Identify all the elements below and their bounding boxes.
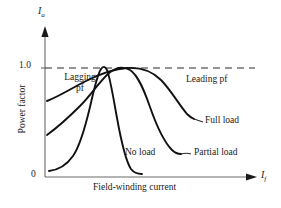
leader-line-full-load — [194, 119, 203, 122]
annotation-lagging-pf: Lagging pf — [52, 72, 108, 93]
y-axis-arrowhead — [41, 26, 48, 37]
annotation-partial-load: Partial load — [194, 148, 238, 158]
x-axis-arrowhead — [246, 173, 257, 180]
x-axis — [45, 173, 257, 180]
x-axis-title: Field-winding current — [93, 183, 176, 193]
y-axis-symbol: Ia — [38, 6, 45, 19]
annotation-lagging-pf-line2: pf — [76, 83, 84, 93]
annotation-lagging-pf-line1: Lagging — [64, 72, 96, 82]
y-axis-title: Power factor — [17, 66, 27, 152]
figure-container: Ia If 1.0 0 Power factor Field-winding c… — [0, 0, 281, 208]
x-axis-symbol: If — [261, 170, 266, 183]
leader-line-partial-load — [181, 153, 191, 154]
x-axis-symbol-sub: f — [264, 175, 266, 183]
y-axis-symbol-sub: a — [41, 11, 45, 19]
y-tick-label-0: 0 — [31, 170, 36, 180]
v-curve-plot — [0, 0, 281, 208]
annotation-leading-pf: Leading pf — [186, 75, 227, 85]
annotation-full-load: Full load — [205, 116, 239, 126]
annotation-no-load: No load — [125, 148, 155, 158]
